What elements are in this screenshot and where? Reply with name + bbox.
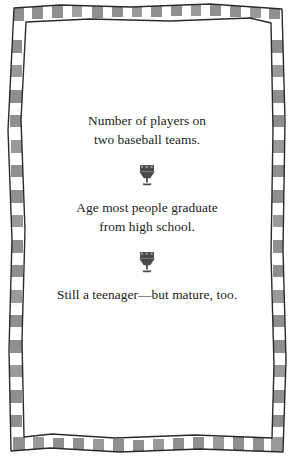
clue-2-line-1: Age most people graduate bbox=[34, 199, 260, 218]
clue-2-line-2: from high school. bbox=[34, 218, 260, 237]
clue-1-line-1: Number of players on bbox=[34, 112, 260, 131]
clue-1-line-2: two baseball teams. bbox=[34, 131, 260, 150]
riddle-page: Number of players on two baseball teams.… bbox=[0, 0, 294, 460]
clue-3: Still a teenager—but mature, too. bbox=[34, 286, 260, 305]
clue-2: Age most people graduate from high schoo… bbox=[34, 199, 260, 236]
clue-3-line-1: Still a teenager—but mature, too. bbox=[34, 286, 260, 305]
goblet-ornament bbox=[134, 249, 160, 273]
clue-1: Number of players on two baseball teams. bbox=[34, 112, 260, 149]
goblet-ornament bbox=[134, 162, 160, 186]
clue-stack: Number of players on two baseball teams.… bbox=[34, 36, 260, 426]
